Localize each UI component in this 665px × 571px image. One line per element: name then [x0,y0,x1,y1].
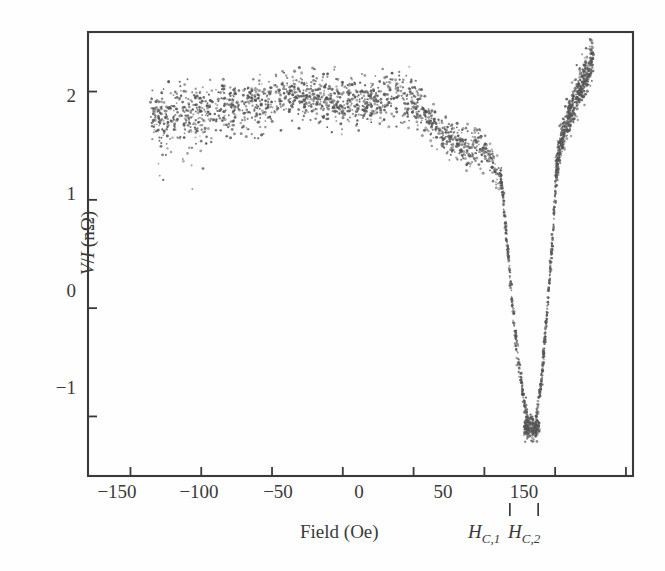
y-tick-label-1: 1 [42,183,76,205]
hc2-label: HC,2 [508,521,540,547]
scatter-data-points [149,38,595,443]
y-axis-title-unit: (nΩ) [77,211,98,252]
x-tick-label--50: −50 [251,481,305,503]
y-tick-label--1: −1 [34,377,76,399]
y-tick-label-2: 2 [42,85,76,107]
x-tick-label--150: −150 [86,481,148,503]
x-tick-label-50: 50 [421,481,465,503]
hc1-label: HC,1 [468,521,500,547]
x-axis-title: Field (Oe) [300,521,379,543]
hc2-subscript: C,2 [522,531,540,546]
hc1-letter: H [468,521,482,542]
y-axis-title: V/I (nΩ) [77,173,99,313]
x-axis-ticks [130,467,625,476]
y-axis-title-slash: / [77,258,98,263]
hc2-letter: H [508,521,522,542]
coercive-field-markers [510,503,538,516]
y-axis-title-current: I [77,252,98,258]
x-tick-label-0: 0 [343,481,375,503]
figure-container: −150 −100 −50 0 50 150 2 1 0 −1 Field (O… [0,0,665,571]
y-axis-title-voltage: V [77,264,98,276]
hc1-subscript: C,1 [482,531,500,546]
y-tick-label-0: 0 [42,280,76,302]
x-tick-label-150: 150 [496,481,552,503]
x-tick-label--100: −100 [168,481,230,503]
